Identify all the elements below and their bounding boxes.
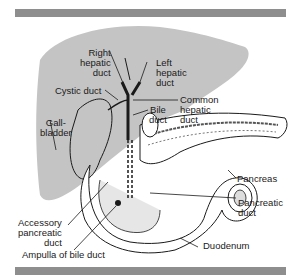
label-bile-duct: Bile duct — [149, 105, 167, 125]
label-cystic-duct: Cystic duct — [55, 86, 101, 96]
label-ampulla-of-bile-duct: Ampulla of bile duct — [22, 250, 105, 260]
label-right-hepatic-duct: Right hepatic duct — [80, 48, 111, 78]
label-pancreatic-duct: Pancreatic duct — [238, 198, 283, 218]
label-gallbladder: Gall- bladder — [40, 118, 72, 138]
label-accessory-pancreatic-duct: Accessory pancreatic duct — [18, 218, 62, 248]
label-left-hepatic-duct: Left hepatic duct — [156, 58, 187, 88]
label-common-hepatic-duct: Common hepatic duct — [180, 95, 219, 125]
label-pancreas: Pancreas — [237, 174, 277, 184]
label-duodenum: Duodenum — [203, 241, 249, 251]
